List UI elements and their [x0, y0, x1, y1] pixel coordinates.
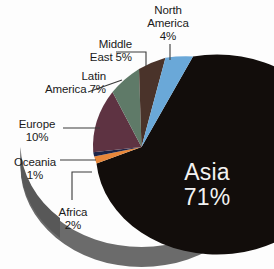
slice-label-middle-east-line1: Middle [58, 38, 132, 51]
leader-line-africa [72, 172, 92, 200]
slice-label-europe-line1: Europe [6, 118, 68, 131]
slice-label-north-america-line1: North [132, 4, 204, 17]
slice-label-latin-america: Latin America 7% [12, 70, 106, 96]
slice-label-asia-value: 71% [168, 185, 246, 210]
slice-label-oceania-value: 1% [4, 169, 66, 182]
slice-label-africa-line1: Africa [44, 206, 102, 219]
slice-label-north-america: North America 4% [132, 4, 204, 43]
slice-label-europe: Europe 10% [6, 118, 68, 144]
slice-label-oceania-line1: Oceania [4, 156, 66, 169]
slice-label-middle-east-line2: East 5% [58, 51, 132, 64]
slice-label-africa: Africa 2% [44, 206, 102, 232]
slice-label-latin-america-line2: America 7% [12, 83, 106, 96]
slice-label-africa-value: 2% [44, 219, 102, 232]
slice-label-europe-value: 10% [6, 131, 68, 144]
slice-label-north-america-line2: America [132, 17, 204, 30]
pie-chart-figure: North America 4% Middle East 5% Latin Am… [0, 0, 274, 269]
slice-label-north-america-value: 4% [132, 30, 204, 43]
pie-slices [93, 55, 274, 255]
slice-label-oceania: Oceania 1% [4, 156, 66, 182]
slice-label-latin-america-line1: Latin [12, 70, 106, 83]
slice-label-asia: Asia 71% [168, 160, 246, 210]
slice-label-asia-line1: Asia [168, 160, 246, 185]
slice-label-middle-east: Middle East 5% [58, 38, 132, 64]
